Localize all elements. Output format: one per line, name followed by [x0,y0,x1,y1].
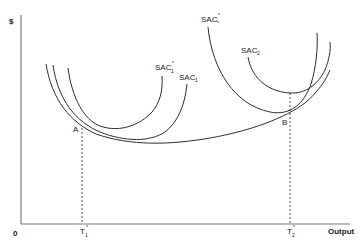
svg-text:SAC: SAC [179,73,196,82]
x-axis-label: Output [328,227,355,236]
svg-text:SAC: SAC [155,63,172,72]
sac2-curve [248,42,330,93]
point-a-label: A [73,125,79,134]
tick-t2-label: T 2 * [287,224,295,238]
sac1-label: SAC 1 [179,73,198,83]
tick-t1-label: T 1 * [80,224,88,238]
svg-text:*: * [218,12,220,18]
svg-text:*: * [86,224,88,230]
sac1-star-label: SAC 1 * [155,60,174,74]
svg-text:SAC: SAC [241,46,258,55]
sac2-label: SAC 2 [241,46,260,56]
svg-text:2: 2 [292,232,295,238]
origin-label: 0 [13,229,18,238]
sac1-star-curve [68,68,162,129]
svg-text:1: 1 [85,232,88,238]
y-axis-label: $ [9,17,14,26]
svg-text:*: * [293,224,295,230]
sac2-star-label: SAC * * [201,12,220,26]
svg-text:1: 1 [171,68,174,74]
svg-text:2: 2 [257,50,260,56]
sac2-star-curve [208,27,317,113]
svg-text:*: * [217,20,219,26]
svg-text:*: * [172,60,174,66]
svg-text:1: 1 [195,77,198,83]
point-b-label: B [282,118,287,127]
cost-curves-diagram: $ 0 Output A B T 1 * T 2 * SAC 1 * SAC 1… [0,0,363,248]
svg-text:SAC: SAC [201,15,218,24]
